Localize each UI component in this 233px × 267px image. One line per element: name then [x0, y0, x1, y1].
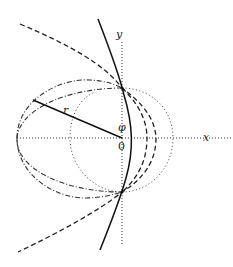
origin-label: 0	[118, 140, 125, 153]
radius-label: r	[63, 104, 69, 117]
upper-intersection-point	[120, 86, 123, 89]
dash-dot-circle-arc	[17, 80, 122, 138]
angle-label: φ	[118, 121, 126, 134]
radius-line	[33, 100, 122, 138]
y-axis-label: y	[115, 28, 123, 41]
lower-intersection-point	[120, 190, 123, 193]
diagram-canvas: y x r φ 0	[0, 0, 233, 267]
dash-dot-circle	[17, 88, 122, 192]
x-axis-label: x	[203, 131, 210, 144]
dash-dot-circle-arc-lower	[17, 138, 122, 198]
